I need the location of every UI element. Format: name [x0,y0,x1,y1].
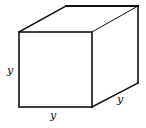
front-face [19,32,92,107]
cube-diagram: y y y [0,0,146,128]
cube [19,6,138,107]
height-label: y [6,64,14,77]
bottom-right-depth-edge [92,83,138,107]
top-left-depth-edge [19,6,66,32]
depth-label: y [116,93,124,106]
top-right-depth-edge [92,6,138,32]
width-label: y [49,109,57,122]
